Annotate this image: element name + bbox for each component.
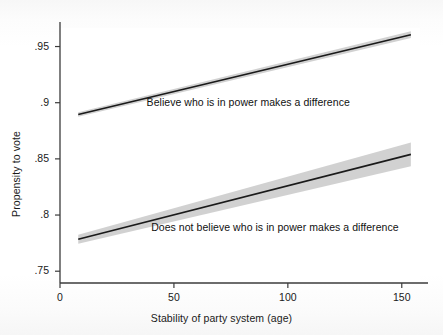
y-tick-label: .8 [13,208,49,220]
x-tick-label: 100 [268,291,308,303]
y-tick-label: .85 [13,152,49,164]
x-tick-label: 150 [382,291,422,303]
x-tick-label: 0 [40,291,80,303]
series-annotation-0: Believe who is in power makes a differen… [147,96,350,108]
y-tick-label: .95 [13,40,49,52]
y-tick-label: .75 [13,264,49,276]
chart-figure: Propensity to vote Stability of party sy… [0,0,443,335]
chart-plot-svg [0,0,443,335]
series-annotation-1: Does not believe who is in power makes a… [151,221,399,233]
x-axis-title: Stability of party system (age) [0,312,443,324]
x-tick-label: 50 [154,291,194,303]
y-tick-label: .9 [13,96,49,108]
